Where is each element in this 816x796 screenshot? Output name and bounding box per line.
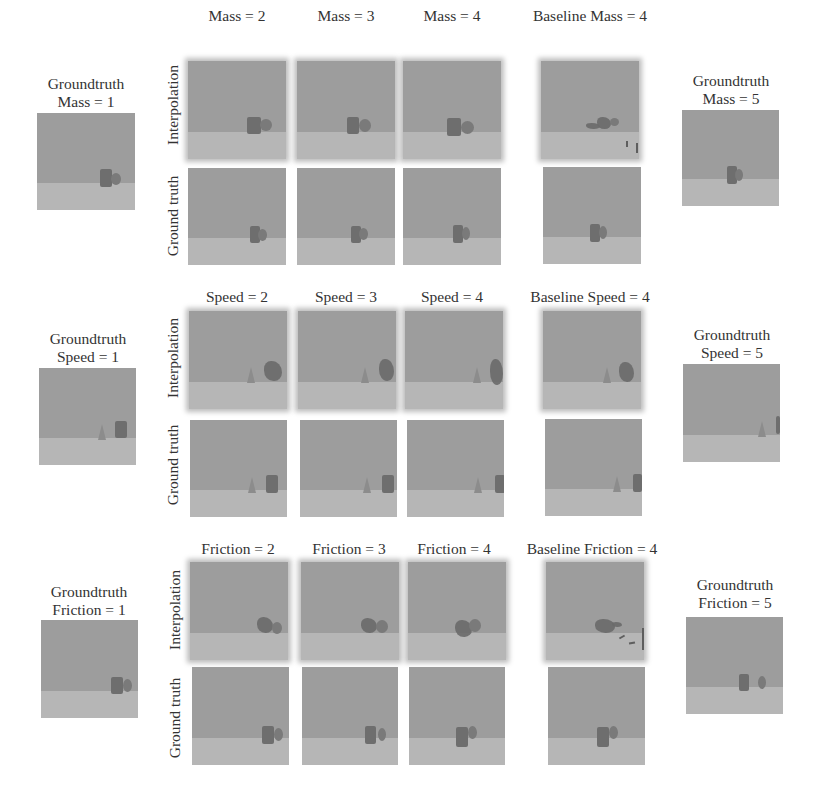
column-label: Friction = 4 <box>405 540 503 558</box>
gt-image-mass-1 <box>37 113 135 210</box>
gt-image-friction-5 <box>686 617 783 714</box>
gt-image-speed-4 <box>407 420 504 517</box>
column-label: Speed = 2 <box>188 288 286 306</box>
row-label-interpolation: Interpolation <box>164 318 182 398</box>
column-label: Speed = 3 <box>297 288 395 306</box>
gt-image-friction-4 <box>409 667 505 765</box>
column-label: Mass = 2 <box>188 7 286 25</box>
label-line: Friction = 5 <box>686 594 784 612</box>
row-label-interpolation: Interpolation <box>164 65 182 145</box>
gt-image-speed-2 <box>190 420 287 517</box>
left-gt-label: Groundtruth Speed = 1 <box>39 330 137 366</box>
row-label-ground-truth: Ground truth <box>164 425 182 506</box>
interp-image-baseline-mass-4 <box>541 61 639 159</box>
gt-image-mass-5 <box>682 110 779 206</box>
gt-image-friction-3 <box>302 667 398 765</box>
gt-image-speed-5 <box>683 364 780 462</box>
interp-image-mass-4 <box>403 61 501 159</box>
column-label: Mass = 3 <box>297 7 395 25</box>
label-line: Groundtruth <box>682 72 780 90</box>
gt-image-baseline-speed-4 <box>545 419 642 516</box>
interp-image-baseline-speed-4 <box>543 311 641 409</box>
label-line: Speed = 5 <box>683 344 781 362</box>
interp-image-baseline-friction-4 <box>546 562 644 660</box>
gt-image-mass-4 <box>403 168 501 265</box>
label-line: Mass = 1 <box>37 93 135 111</box>
interp-image-mass-3 <box>297 61 395 159</box>
interp-image-friction-3 <box>301 562 399 660</box>
label-line: Friction = 1 <box>40 601 138 619</box>
column-label: Baseline Mass = 4 <box>530 7 650 25</box>
label-line: Groundtruth <box>683 326 781 344</box>
interp-image-friction-4 <box>408 562 506 660</box>
column-label: Baseline Friction = 4 <box>522 540 662 558</box>
interp-image-mass-2 <box>188 61 286 159</box>
column-label: Friction = 3 <box>300 540 398 558</box>
column-label: Baseline Speed = 4 <box>528 288 652 306</box>
gt-image-baseline-friction-4 <box>548 667 645 765</box>
interp-image-speed-2 <box>189 311 287 409</box>
gt-image-speed-1 <box>39 368 136 465</box>
gt-image-baseline-mass-4 <box>543 167 641 264</box>
gt-image-speed-3 <box>300 420 397 517</box>
right-gt-label: Groundtruth Friction = 5 <box>686 576 784 612</box>
interp-image-speed-3 <box>298 311 396 409</box>
left-gt-label: Groundtruth Mass = 1 <box>37 75 135 111</box>
row-label-ground-truth: Ground truth <box>166 678 184 759</box>
interp-image-speed-4 <box>405 311 503 409</box>
column-label: Mass = 4 <box>403 7 501 25</box>
row-label-ground-truth: Ground truth <box>164 176 182 257</box>
left-gt-label: Groundtruth Friction = 1 <box>40 583 138 619</box>
row-label-interpolation: Interpolation <box>166 570 184 650</box>
right-gt-label: Groundtruth Mass = 5 <box>682 72 780 108</box>
gt-image-mass-3 <box>297 168 395 265</box>
label-line: Groundtruth <box>37 75 135 93</box>
label-line: Groundtruth <box>686 576 784 594</box>
gt-image-friction-1 <box>41 620 138 718</box>
column-label: Friction = 2 <box>189 540 287 558</box>
column-label: Speed = 4 <box>403 288 501 306</box>
label-line: Speed = 1 <box>39 348 137 366</box>
interp-image-friction-2 <box>190 562 288 660</box>
gt-image-mass-2 <box>188 168 286 265</box>
gt-image-friction-2 <box>192 667 289 765</box>
label-line: Mass = 5 <box>682 90 780 108</box>
label-line: Groundtruth <box>40 583 138 601</box>
right-gt-label: Groundtruth Speed = 5 <box>683 326 781 362</box>
label-line: Groundtruth <box>39 330 137 348</box>
